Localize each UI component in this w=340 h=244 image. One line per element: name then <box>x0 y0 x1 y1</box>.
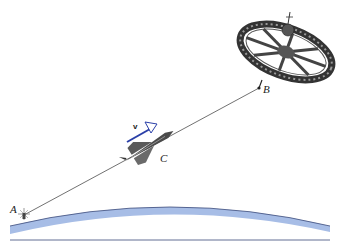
label-point-a: A <box>10 203 17 215</box>
label-velocity: v <box>133 122 137 131</box>
observer-icon <box>18 208 30 220</box>
velocity-arrow-icon <box>127 122 157 142</box>
point-b-marker <box>257 86 260 89</box>
spaceship-icon <box>116 121 180 173</box>
label-point-c: C <box>160 152 167 164</box>
earth-surface <box>10 207 330 234</box>
diagram-canvas <box>0 0 340 244</box>
label-point-b: B <box>263 83 270 95</box>
